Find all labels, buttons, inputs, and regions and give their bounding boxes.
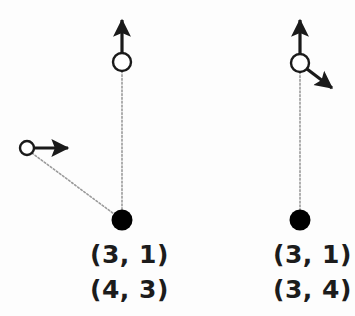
left-configuration-graphics xyxy=(20,20,133,231)
left-open-node-top xyxy=(113,53,131,71)
left-open-node-side xyxy=(20,141,34,155)
right-label-line-1: (3, 1) xyxy=(273,242,352,267)
right-top-node-diagonal-arrow xyxy=(307,69,332,88)
right-filled-node xyxy=(290,210,311,231)
right-configuration-graphics xyxy=(290,20,333,231)
right-open-node-top xyxy=(291,54,309,72)
left-label-line-1: (3, 1) xyxy=(90,242,169,267)
left-diagonal-dotted-edge xyxy=(32,153,114,214)
left-label-line-2: (4, 3) xyxy=(90,277,169,302)
left-filled-node xyxy=(112,210,133,231)
figure-canvas: (3, 1) (4, 3) (3, 1) (3, 4) xyxy=(0,0,355,316)
right-label-line-2: (3, 4) xyxy=(273,277,352,302)
